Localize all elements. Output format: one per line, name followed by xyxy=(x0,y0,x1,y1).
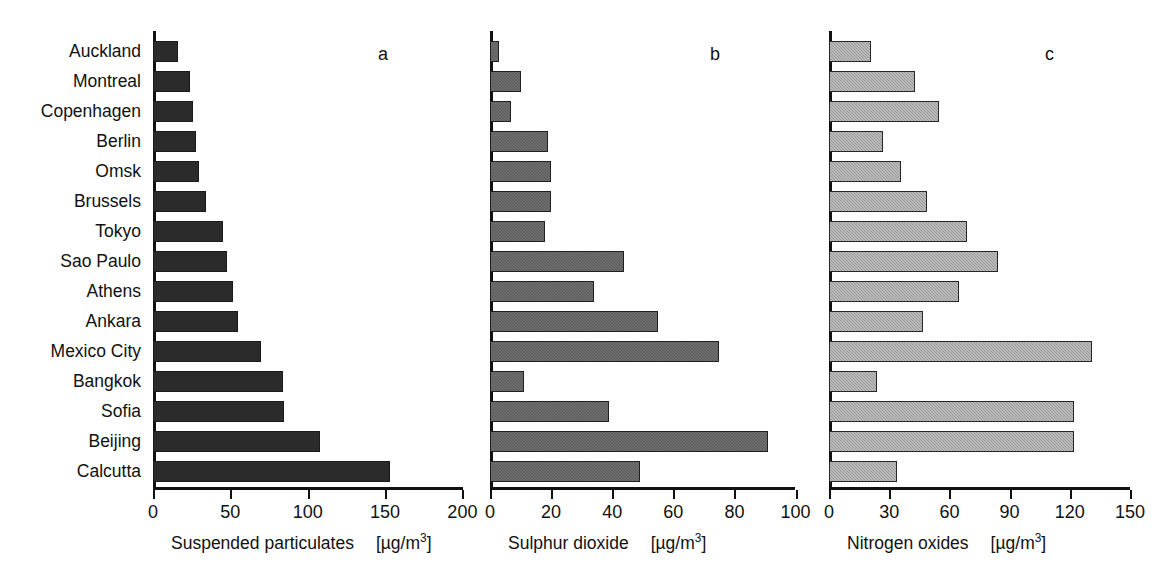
x-axis-tick-label: 150 xyxy=(370,502,400,523)
bar xyxy=(829,431,1074,452)
x-axis-tick-label: 40 xyxy=(602,502,622,523)
x-axis-tick-label: 20 xyxy=(541,502,561,523)
bar xyxy=(829,161,901,182)
bar xyxy=(490,101,511,122)
bar-row xyxy=(829,431,1130,452)
bar-row xyxy=(490,371,795,392)
bar-row xyxy=(490,431,795,452)
bar-row xyxy=(153,221,463,242)
bar xyxy=(153,401,284,422)
x-axis-tick xyxy=(889,490,891,499)
x-axis-tick xyxy=(462,490,464,499)
x-axis-title: Suspended particulates[µg/m3] xyxy=(171,531,432,554)
bar xyxy=(153,161,199,182)
bar xyxy=(490,191,551,212)
x-axis-tick xyxy=(551,490,553,499)
x-axis-tick xyxy=(949,490,951,499)
category-label: Brussels xyxy=(0,186,145,216)
bar xyxy=(829,371,877,392)
category-label: Berlin xyxy=(0,126,145,156)
bar-row xyxy=(829,461,1130,482)
bar-row xyxy=(490,461,795,482)
bar-row xyxy=(490,281,795,302)
category-label: Sao Paulo xyxy=(0,246,145,276)
x-axis-tick xyxy=(829,490,831,499)
bar-row xyxy=(153,251,463,272)
x-axis-title: Nitrogen oxides[µg/m3] xyxy=(847,531,1046,554)
x-axis-tick-label: 100 xyxy=(293,502,323,523)
bar xyxy=(490,281,594,302)
bar xyxy=(829,221,967,242)
bar-row xyxy=(829,191,1130,212)
bar-row xyxy=(153,341,463,362)
bar-row xyxy=(153,431,463,452)
bar-row xyxy=(153,161,463,182)
bar-row xyxy=(829,251,1130,272)
bar-row xyxy=(153,371,463,392)
category-label: Sofia xyxy=(0,396,145,426)
bar-row xyxy=(153,461,463,482)
figure: AucklandMontrealCopenhagenBerlinOmskBrus… xyxy=(0,0,1173,584)
x-axis-tick xyxy=(308,490,310,499)
bar xyxy=(153,371,283,392)
x-axis-unit: [µg/m3] xyxy=(651,533,707,553)
x-axis-tick xyxy=(1070,490,1072,499)
x-axis-tick-label: 80 xyxy=(724,502,744,523)
bar xyxy=(829,311,923,332)
bar-row xyxy=(490,341,795,362)
bar xyxy=(153,41,178,62)
bar xyxy=(490,461,640,482)
x-axis-unit: [µg/m3] xyxy=(376,533,432,553)
x-axis-tick-label: 60 xyxy=(939,502,959,523)
bar xyxy=(490,401,609,422)
x-axis-unit-close: ] xyxy=(427,533,432,553)
bar xyxy=(153,311,238,332)
bar-row xyxy=(490,101,795,122)
x-axis-tick xyxy=(612,490,614,499)
x-axis-tick xyxy=(673,490,675,499)
bar xyxy=(829,461,897,482)
bar xyxy=(490,431,768,452)
bar-row xyxy=(829,131,1130,152)
bar xyxy=(829,281,959,302)
bar-row xyxy=(829,371,1130,392)
category-label: Montreal xyxy=(0,66,145,96)
x-axis-unit-close: ] xyxy=(701,533,706,553)
x-axis-tick-label: 0 xyxy=(148,502,158,523)
x-axis-tick xyxy=(153,490,155,499)
bar-row xyxy=(490,401,795,422)
bar-row xyxy=(153,281,463,302)
category-label: Calcutta xyxy=(0,456,145,486)
x-axis-unit: [µg/m3] xyxy=(991,533,1047,553)
x-axis-title-text: Nitrogen oxides xyxy=(847,533,969,553)
bar-row xyxy=(829,401,1130,422)
x-axis-unit-base: [µg/m xyxy=(991,533,1035,553)
bar-row xyxy=(490,71,795,92)
x-axis-tick-label: 150 xyxy=(1115,502,1145,523)
bar xyxy=(153,341,261,362)
x-axis-tick-label: 200 xyxy=(447,502,477,523)
bar xyxy=(829,131,883,152)
x-axis-tick-label: 120 xyxy=(1055,502,1085,523)
x-axis-line xyxy=(829,487,1130,490)
category-label: Beijing xyxy=(0,426,145,456)
x-axis-tick xyxy=(385,490,387,499)
bar xyxy=(153,101,193,122)
bar-row xyxy=(490,251,795,272)
x-axis-tick-label: 0 xyxy=(485,502,495,523)
bar xyxy=(490,251,624,272)
bar-row xyxy=(829,41,1130,62)
bar-row xyxy=(153,101,463,122)
bar-row xyxy=(490,131,795,152)
bar xyxy=(829,341,1092,362)
x-axis-tick xyxy=(1130,490,1132,499)
category-label: Auckland xyxy=(0,36,145,66)
bar xyxy=(153,251,227,272)
bar-row xyxy=(153,131,463,152)
x-axis-unit-base: [µg/m xyxy=(376,533,420,553)
x-axis-tick-label: 100 xyxy=(780,502,810,523)
bar-row xyxy=(490,221,795,242)
bar xyxy=(153,281,233,302)
bar-row xyxy=(490,41,795,62)
bar xyxy=(829,401,1074,422)
